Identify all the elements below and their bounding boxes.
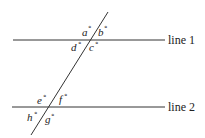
svg-text:c: c [89,41,94,53]
angle-e: e° [37,94,47,106]
svg-text:°: ° [34,111,38,119]
parallel-lines-diagram: line 1 line 2 a° b° d° c° e° f° h° g° [0,0,205,138]
line-2-label: line 2 [168,100,195,114]
svg-text:°: ° [78,41,82,49]
svg-text:°: ° [64,93,68,101]
angle-h: h° [27,111,38,123]
svg-text:d: d [71,41,77,53]
angle-f: f° [59,93,68,105]
transversal [31,12,108,135]
svg-text:e: e [37,94,42,106]
svg-text:°: ° [88,25,92,33]
svg-text:°: ° [104,25,108,33]
line-1-label: line 1 [168,33,195,47]
svg-text:h: h [27,111,33,123]
angle-d: d° [71,41,82,53]
svg-text:°: ° [95,41,99,49]
angle-g: g° [45,113,55,125]
angle-c: c° [89,41,99,53]
svg-text:°: ° [51,113,55,121]
angle-b: b° [98,25,108,38]
svg-text:°: ° [43,94,47,102]
angle-a: a° [82,25,92,38]
